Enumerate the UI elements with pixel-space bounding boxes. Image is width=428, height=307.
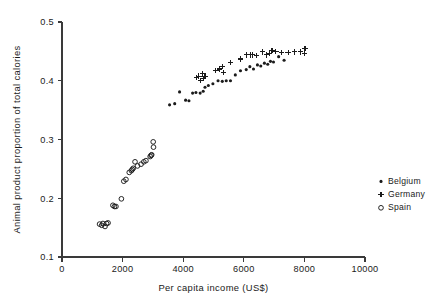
point-belgium-26 xyxy=(272,60,275,63)
y-axis-title: Animal product proportion of total calor… xyxy=(11,45,22,233)
point-belgium-21 xyxy=(256,63,259,66)
x-tick-label-2: 4000 xyxy=(172,264,194,274)
point-germany-26 xyxy=(302,51,307,56)
point-belgium-27 xyxy=(277,55,280,58)
point-belgium-22 xyxy=(259,65,262,68)
point-belgium-14 xyxy=(225,79,228,82)
legend-label-belgium: Belgium xyxy=(388,176,421,186)
series-belgium xyxy=(168,55,286,106)
y-tick-label-2: 0.3 xyxy=(40,135,54,145)
y-tick-label-4: 0.5 xyxy=(40,17,54,27)
legend-label-germany: Germany xyxy=(388,189,426,199)
legend-item-belgium[interactable]: Belgium xyxy=(379,176,420,186)
scatter-chart-figure: 0.10.20.30.40.50200040006000800010000 Pe… xyxy=(0,0,428,307)
point-legend-2 xyxy=(379,205,384,210)
y-tick-label-0: 0.1 xyxy=(40,252,54,262)
point-germany-21 xyxy=(279,50,284,55)
point-germany-25 xyxy=(302,46,307,51)
point-belgium-11 xyxy=(211,82,214,85)
point-belgium-24 xyxy=(266,63,269,66)
legend-label-spain: Spain xyxy=(388,202,411,212)
point-germany-15 xyxy=(254,53,259,58)
point-germany-8 xyxy=(220,64,225,69)
point-belgium-16 xyxy=(234,73,237,76)
point-belgium-9 xyxy=(203,86,206,89)
point-belgium-7 xyxy=(199,92,202,95)
x-tick-label-4: 8000 xyxy=(294,264,316,274)
point-belgium-2 xyxy=(178,90,181,93)
y-tick-label-1: 0.2 xyxy=(40,194,54,204)
point-belgium-25 xyxy=(269,60,272,63)
data-points xyxy=(97,46,307,229)
x-tick-label-1: 2000 xyxy=(112,264,134,274)
point-belgium-8 xyxy=(202,90,205,93)
point-belgium-0 xyxy=(168,103,171,106)
x-tick-label-0: 0 xyxy=(59,264,64,274)
plot-area: 0.10.20.30.40.50200040006000800010000 Pe… xyxy=(0,0,428,307)
point-belgium-6 xyxy=(194,91,197,94)
point-belgium-12 xyxy=(216,79,219,82)
point-legend-1 xyxy=(378,192,383,197)
point-belgium-10 xyxy=(207,84,210,87)
point-germany-9 xyxy=(221,70,226,75)
point-germany-22 xyxy=(285,50,290,55)
series-spain xyxy=(97,140,156,229)
point-spain-9 xyxy=(119,196,124,201)
point-belgium-15 xyxy=(229,79,232,82)
point-germany-20 xyxy=(273,49,278,54)
point-belgium-19 xyxy=(248,65,251,68)
point-belgium-4 xyxy=(187,99,190,102)
y-tick-label-3: 0.4 xyxy=(40,76,54,86)
point-germany-11 xyxy=(238,56,243,61)
legend-item-spain[interactable]: Spain xyxy=(379,202,412,212)
legend-item-germany[interactable]: Germany xyxy=(378,189,425,199)
point-belgium-18 xyxy=(245,68,248,71)
x-tick-label-3: 6000 xyxy=(233,264,255,274)
point-belgium-1 xyxy=(173,102,176,105)
point-belgium-28 xyxy=(283,59,286,62)
point-germany-24 xyxy=(298,49,303,54)
point-belgium-3 xyxy=(184,99,187,102)
point-belgium-13 xyxy=(221,80,224,83)
axes: 0.10.20.30.40.50200040006000800010000 xyxy=(40,17,378,274)
point-germany-3 xyxy=(200,71,205,76)
point-spain-25 xyxy=(151,145,156,150)
point-belgium-17 xyxy=(239,69,242,72)
legend: BelgiumGermanySpain xyxy=(378,176,425,212)
point-belgium-5 xyxy=(191,92,194,95)
point-germany-16 xyxy=(260,49,265,54)
point-germany-19 xyxy=(269,48,274,53)
x-axis-title: Per capita income (US$) xyxy=(158,282,268,293)
point-germany-10 xyxy=(228,60,233,65)
point-germany-23 xyxy=(292,49,297,54)
point-spain-24 xyxy=(151,140,156,145)
series-germany xyxy=(194,46,308,84)
point-legend-0 xyxy=(379,180,382,183)
point-belgium-20 xyxy=(252,67,255,70)
point-belgium-23 xyxy=(263,62,266,65)
point-germany-2 xyxy=(198,78,203,83)
x-tick-label-5: 10000 xyxy=(351,264,378,274)
